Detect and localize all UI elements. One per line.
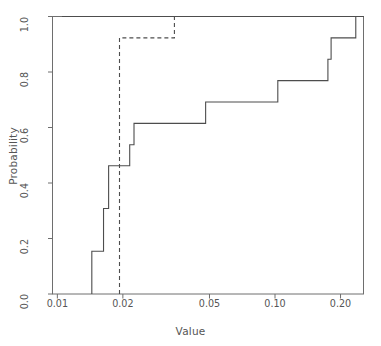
y-tick-label: 0.8 [19,72,30,87]
x-tick-label: 0.20 [330,298,351,309]
series-fitted-cdf-dashed [120,17,175,295]
y-tick-label: 0.2 [19,239,30,254]
y-tick-label: 0.0 [19,294,30,309]
x-tick-label: 0.02 [112,298,133,309]
chart-canvas: Value Probability 0.010.020.050.100.20 0… [0,0,381,346]
x-tick-label: 0.01 [47,298,68,309]
x-tick-label: 0.10 [264,298,285,309]
y-axis-ticks [48,17,53,295]
plot-box [53,17,364,295]
x-axis-title: Value [0,325,381,337]
y-tick-label: 1.0 [19,17,30,32]
y-axis-title: Probability [7,106,19,206]
y-tick-label: 0.6 [19,128,30,143]
series-empirical-cdf [92,17,364,295]
x-tick-label: 0.05 [199,298,220,309]
y-tick-label: 0.4 [19,183,30,198]
ecdf-plot [0,0,381,346]
plot-frame [53,17,364,295]
data-series-group [62,17,364,295]
